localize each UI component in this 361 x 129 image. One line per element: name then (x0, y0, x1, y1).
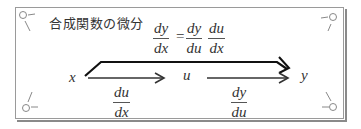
node-u: u (183, 67, 191, 84)
formula-lhs: dydx (153, 20, 169, 57)
formula-rhs-1: dydu (186, 20, 202, 57)
equals-sign: = (176, 28, 184, 45)
label-du-dx: dudx (113, 84, 130, 121)
pin-icon-bottom-right (322, 92, 337, 111)
pin-icon-top-right (321, 14, 337, 32)
formula-rhs-2: dudx (208, 20, 225, 57)
node-y: y (301, 67, 308, 84)
pin-icon-bottom-left (23, 92, 39, 112)
diagram-title: 合成関数の微分 (49, 13, 144, 32)
node-x: x (69, 69, 76, 86)
pin-icon-top-left (20, 12, 36, 32)
label-dy-du: dydu (231, 84, 247, 121)
